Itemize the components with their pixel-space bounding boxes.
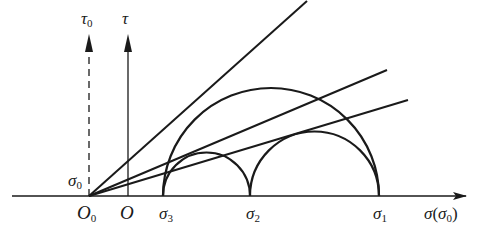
sigma3-label: σ3 [159, 205, 173, 224]
tau0-axis-label: τ0 [81, 10, 93, 29]
sigma0-label: σ0 [68, 172, 82, 191]
tau-arrow-icon [124, 34, 132, 52]
tau-axis-label: τ [122, 10, 128, 27]
sigma2-label: σ2 [246, 205, 260, 224]
tau0-arrow-icon [85, 34, 93, 52]
tangent-line-sigma3-sigma2 [89, 70, 387, 196]
sigma1-label: σ1 [373, 205, 387, 224]
origin-o-label: O [120, 203, 134, 222]
origin-o0-label: O0 [77, 203, 96, 224]
mohr-diagram [0, 0, 498, 231]
tangent-line-sigma3-sigma1 [89, 1, 307, 196]
sigma-axis-label: σ(σ0) [424, 205, 458, 224]
